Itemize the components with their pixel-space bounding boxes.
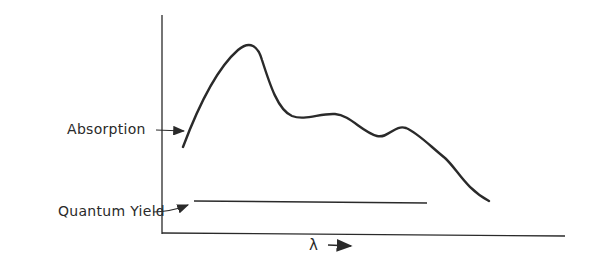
- absorption-label: Absorption: [67, 121, 146, 137]
- absorption-curve: [183, 45, 489, 201]
- quantum-yield-line: [194, 201, 427, 203]
- x-axis-label-lambda: λ: [309, 236, 318, 254]
- quantum-yield-label: Quantum Yield: [58, 203, 165, 219]
- x-direction-arrow-icon: [328, 245, 351, 246]
- absorption-pointer-arrow-icon: [156, 130, 184, 131]
- x-axis: [162, 233, 565, 236]
